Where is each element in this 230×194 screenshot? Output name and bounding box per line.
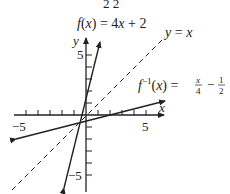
f-label: f(x) = 4x + 2 <box>77 16 146 32</box>
x-axis: x −5 5 <box>12 100 165 134</box>
y-axis-label: y <box>71 33 79 48</box>
y-tick-neg5: −5 <box>68 168 82 183</box>
x-tick-5: 5 <box>142 119 149 134</box>
svg-text:−: − <box>207 77 214 92</box>
identity-label: y = x <box>163 25 193 40</box>
svg-text:2: 2 <box>219 86 224 96</box>
inverse-label: f−1(x) = x 4 − 1 2 <box>138 75 225 96</box>
y-tick-5: 5 <box>77 47 84 62</box>
svg-text:4: 4 <box>196 86 201 96</box>
svg-text:f−1(x) =: f−1(x) = <box>138 76 179 94</box>
svg-text:1: 1 <box>219 75 224 85</box>
function-inverse-graph: 2 2 x −5 5 y 5 −5 <box>0 0 230 194</box>
y-axis: y 5 −5 <box>68 33 92 192</box>
top-fragment: 2 2 <box>103 0 119 11</box>
identity-line <box>12 37 165 190</box>
svg-text:x: x <box>195 75 200 85</box>
x-tick-neg5: −5 <box>12 119 26 134</box>
